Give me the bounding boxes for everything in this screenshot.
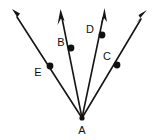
- geometry-canvas: E B D C A: [0, 0, 160, 140]
- ray-ac-arrowhead: [136, 10, 147, 23]
- vertex-a-group: A: [78, 115, 86, 136]
- point-e-label: E: [34, 66, 41, 78]
- point-c-label: C: [103, 50, 111, 62]
- point-b-label: B: [57, 36, 64, 48]
- ray-ad-arrowhead: [101, 8, 107, 24]
- ray-ad-group: D: [82, 8, 107, 118]
- vertex-a-label: A: [78, 124, 86, 136]
- point-c-dot: [114, 62, 121, 69]
- point-b-dot: [68, 45, 75, 52]
- vertex-a-dot: [79, 115, 84, 120]
- geometry-figure: E B D C A: [0, 0, 160, 140]
- point-e-dot: [47, 63, 54, 70]
- point-d-label: D: [86, 23, 94, 35]
- point-d-dot: [99, 32, 106, 39]
- ray-ab-group: B: [57, 9, 82, 118]
